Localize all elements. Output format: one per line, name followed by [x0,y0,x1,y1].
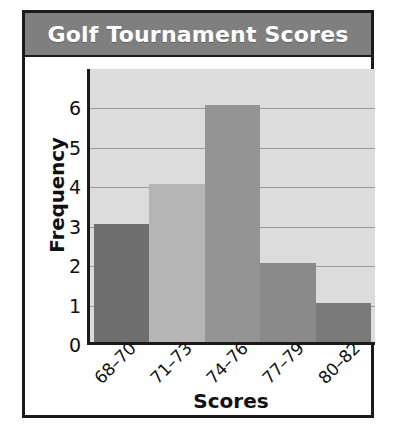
x-axis-label: Scores [87,389,375,413]
bar [316,303,371,342]
plot-inner [90,69,375,342]
figure-canvas: Golf Tournament Scores Frequency 0123456… [0,0,396,434]
y-tick-label: 5 [59,138,81,157]
plot-area [87,69,375,345]
x-tick-label: 68–70 [90,338,140,388]
chart-title: Golf Tournament Scores [47,22,348,47]
y-tick-label: 1 [59,296,81,315]
x-tick-label: 74–76 [202,338,252,388]
y-axis-tick-labels: 0123456 [59,69,81,345]
bar [260,263,315,342]
chart-body: Frequency 0123456 68–7071–7374–7677–7980… [25,57,371,415]
bar [94,224,149,342]
y-tick-label: 2 [59,257,81,276]
x-tick-label: 77–79 [258,338,308,388]
title-banner: Golf Tournament Scores [25,13,371,57]
y-tick-label: 3 [59,217,81,236]
x-tick-label: 80–82 [314,338,364,388]
y-tick-label: 6 [59,99,81,118]
x-tick-label: 71–73 [146,338,196,388]
y-tick-label: 4 [59,178,81,197]
bar [205,105,260,342]
bar [149,184,204,342]
y-tick-label: 0 [59,336,81,355]
chart-frame: Golf Tournament Scores Frequency 0123456… [22,10,374,418]
bar-series [94,69,371,342]
